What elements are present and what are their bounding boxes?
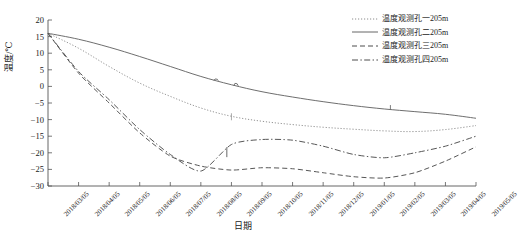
legend-label-0: 温度观测孔一205m	[382, 12, 448, 26]
legend-line-sample-0	[352, 14, 378, 24]
legend: 温度观测孔一205m温度观测孔二205m温度观测孔三205m温度观测孔四205m	[352, 12, 448, 66]
legend-item-3[interactable]: 温度观测孔四205m	[352, 53, 448, 67]
legend-item-1[interactable]: 温度观测孔二205m	[352, 26, 448, 40]
legend-item-0[interactable]: 温度观测孔一205m	[352, 12, 448, 26]
legend-label-1: 温度观测孔二205m	[382, 26, 448, 40]
legend-line-sample-2	[352, 41, 378, 51]
legend-label-3: 温度观测孔四205m	[382, 53, 448, 67]
x-tick-14: 2019/05/05	[490, 190, 518, 218]
legend-item-2[interactable]: 温度观测孔三205m	[352, 39, 448, 53]
legend-label-2: 温度观测孔三205m	[382, 39, 448, 53]
legend-line-sample-1	[352, 27, 378, 37]
legend-line-sample-3	[352, 55, 378, 65]
